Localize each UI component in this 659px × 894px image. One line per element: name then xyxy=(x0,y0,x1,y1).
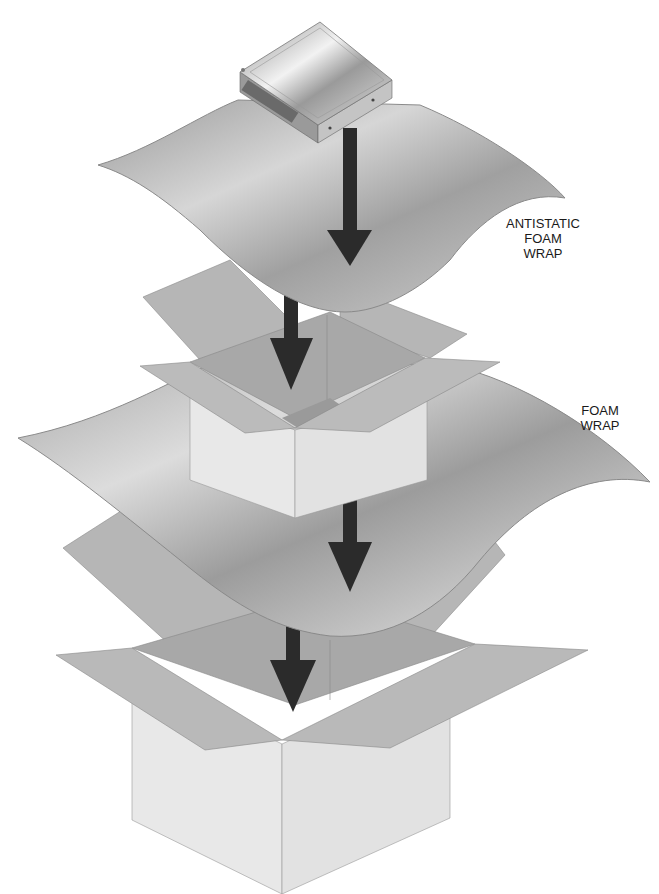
antistatic-foam-wrap-label: ANTISTATIC FOAM WRAP xyxy=(488,216,598,261)
label-line: WRAP xyxy=(560,418,640,433)
foam-wrap-label: FOAM WRAP xyxy=(560,403,640,433)
packaging-diagram: ANTISTATIC FOAM WRAP FOAM WRAP xyxy=(0,0,659,894)
label-line: WRAP xyxy=(488,246,598,261)
label-line: ANTISTATIC xyxy=(488,216,598,231)
label-line: FOAM xyxy=(488,231,598,246)
label-line: FOAM xyxy=(560,403,640,418)
diagram-canvas xyxy=(0,0,659,894)
